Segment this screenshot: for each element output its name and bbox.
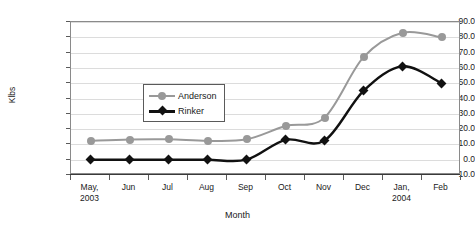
data-point-anderson-8 <box>399 29 407 37</box>
legend-swatch-circle-icon <box>149 90 175 101</box>
x-tick-mark <box>460 175 461 180</box>
x-tick-mark <box>109 175 110 180</box>
data-point-anderson-6 <box>321 114 329 122</box>
data-point-anderson-0 <box>87 137 95 145</box>
x-tick-mark <box>304 175 305 180</box>
series-lines <box>71 22 461 175</box>
data-point-anderson-4 <box>243 135 251 143</box>
plot-area: Anderson Rinker <box>70 21 460 174</box>
legend-swatch-diamond-icon <box>149 105 175 116</box>
y-axis-title-wrap: Klbs <box>0 84 34 102</box>
x-axis-title: Month <box>0 210 475 220</box>
x-tick-mark <box>187 175 188 180</box>
x-tick-mark <box>148 175 149 180</box>
x-tick-label: Feb <box>411 182 471 193</box>
x-tick-mark <box>226 175 227 180</box>
x-tick-mark <box>265 175 266 180</box>
data-point-anderson-1 <box>126 136 134 144</box>
legend-item-anderson: Anderson <box>149 88 217 103</box>
legend-item-rinker: Rinker <box>149 103 217 118</box>
data-point-anderson-3 <box>204 137 212 145</box>
data-point-anderson-7 <box>360 53 368 61</box>
data-point-anderson-2 <box>165 135 173 143</box>
y-axis-title: Klbs <box>7 87 17 104</box>
data-point-anderson-5 <box>282 122 290 130</box>
x-tick-mark <box>70 175 71 180</box>
x-tick-mark <box>382 175 383 180</box>
data-point-anderson-9 <box>438 33 446 41</box>
legend-label-rinker: Rinker <box>178 106 204 116</box>
x-tick-mark <box>343 175 344 180</box>
line-chart: Klbs 90.080.070.060.050.040.030.020.010.… <box>0 0 475 229</box>
x-tick-mark <box>421 175 422 180</box>
legend: Anderson Rinker <box>143 84 225 122</box>
legend-label-anderson: Anderson <box>178 91 217 101</box>
